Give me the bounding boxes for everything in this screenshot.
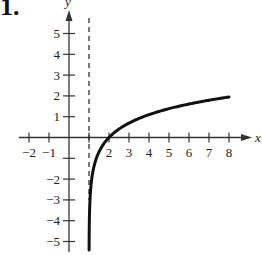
function-curve [89, 97, 229, 250]
x-tick-label: 5 [166, 145, 173, 160]
x-axis-arrow-icon [241, 134, 252, 141]
y-tick-label: 3 [54, 68, 61, 83]
y-tick-label: 4 [54, 47, 61, 62]
y-axis-label: y [63, 0, 71, 9]
x-tick-label: 2 [106, 145, 113, 160]
y-tick-label: −3 [46, 192, 60, 207]
x-tick-label: 3 [126, 145, 133, 160]
y-tick-label: −2 [46, 172, 60, 187]
chart: xy−2−1234567854321−2−3−4−5 [0, 0, 262, 255]
x-tick-label: 4 [146, 145, 153, 160]
x-tick-label: 8 [226, 145, 233, 160]
x-tick-label: −1 [42, 145, 56, 160]
y-tick-label: −5 [46, 234, 60, 249]
y-axis-arrow-icon [66, 10, 73, 21]
y-tick-label: −4 [46, 213, 60, 228]
x-tick-label: 7 [206, 145, 213, 160]
x-axis-label: x [254, 130, 261, 145]
x-tick-label: −2 [22, 145, 36, 160]
y-tick-label: 2 [54, 88, 61, 103]
y-tick-label: 5 [54, 26, 61, 41]
x-tick-label: 6 [186, 145, 193, 160]
y-tick-label: 1 [54, 109, 61, 124]
